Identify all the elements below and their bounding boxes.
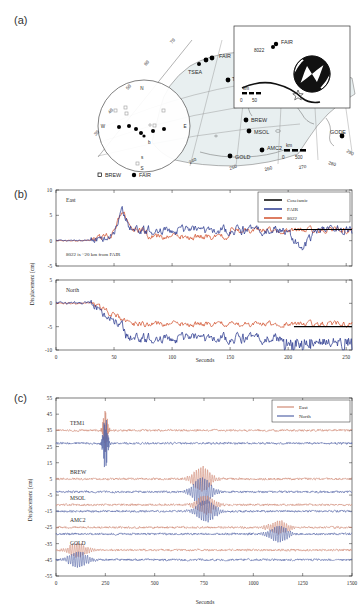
trace-east-brew <box>56 466 352 492</box>
station-label-gold: GOLD <box>235 154 250 160</box>
svg-text:Coseismic: Coseismic <box>287 198 309 203</box>
svg-text:AMC2: AMC2 <box>70 517 86 523</box>
svg-text:5: 5 <box>49 476 52 482</box>
scalebar-max: 500 <box>295 155 303 160</box>
svg-text:5: 5 <box>49 212 52 218</box>
compass-south: S <box>140 166 143 171</box>
compass-east: E <box>183 124 186 129</box>
svg-text:0: 0 <box>49 300 52 306</box>
svg-text:15: 15 <box>47 460 53 466</box>
svg-text:200: 200 <box>284 354 292 360</box>
legend-open-square-icon <box>98 173 102 177</box>
inset-label-fair: FAIR <box>281 39 293 45</box>
svg-text:East: East <box>299 405 308 410</box>
svg-text:FAIR: FAIR <box>287 207 299 212</box>
svg-text:MSOL: MSOL <box>70 495 86 501</box>
station-label-brew: BREW <box>251 117 268 123</box>
svg-text:1250: 1250 <box>297 580 308 586</box>
svg-text:1500: 1500 <box>347 580 358 586</box>
svg-text:0: 0 <box>55 354 58 360</box>
svg-text:-5: -5 <box>48 263 53 269</box>
scalebar-unit: km <box>286 143 292 148</box>
svg-text:250: 250 <box>101 580 109 586</box>
svg-text:-5: -5 <box>48 324 53 330</box>
legend-label-fair: FAIR <box>139 172 151 178</box>
svg-text:b: b <box>148 140 151 145</box>
lon-tick-260: 260 <box>264 165 273 172</box>
svg-text:-10: -10 <box>45 347 52 353</box>
panel-b-xlabel: Seconds <box>196 357 215 363</box>
svg-text:55: 55 <box>47 395 53 401</box>
svg-text:750: 750 <box>200 580 208 586</box>
panel-c-legend <box>272 400 350 422</box>
svg-text:North: North <box>299 414 311 419</box>
svg-text:North: North <box>66 287 79 293</box>
svg-text:500: 500 <box>151 580 159 586</box>
lon-tick-270: 270 <box>298 164 307 170</box>
lat-tick-70: 70 <box>169 37 176 44</box>
svg-text:TEM1: TEM1 <box>70 420 85 426</box>
trace-east-gold <box>56 543 352 557</box>
panel-b-chart: Displacement (cm) Seconds 1050-5East50-5… <box>20 184 358 366</box>
svg-text:50: 50 <box>111 354 117 360</box>
svg-text:25: 25 <box>47 444 53 450</box>
legend-filled-circle-icon <box>132 173 136 177</box>
svg-text:45: 45 <box>47 411 53 417</box>
inset-scalebar-unit: km <box>243 86 249 91</box>
station-label-gode: GODE <box>330 129 346 135</box>
svg-text:-55: -55 <box>45 573 52 579</box>
series-8022 <box>56 302 352 328</box>
svg-text:East: East <box>66 197 76 203</box>
panel-b-ylabel: Displacement (cm) <box>29 263 36 306</box>
map-inset-box: FAIR 8022 km 0 50 <box>234 26 350 108</box>
svg-text:-45: -45 <box>45 557 52 563</box>
inset-label-8022: 8022 <box>254 48 265 53</box>
svg-text:-5: -5 <box>48 492 53 498</box>
scalebar-min: 0 <box>282 155 285 160</box>
svg-text:250: 250 <box>342 354 350 360</box>
svg-text:-25: -25 <box>45 524 52 530</box>
map-legend: BREW FAIR <box>98 172 151 178</box>
lat-tick-60: 60 <box>143 59 150 66</box>
panel-a-map: N S E W b s FAIR <box>40 14 358 179</box>
svg-text:0: 0 <box>49 238 52 244</box>
svg-text:1000: 1000 <box>248 580 259 586</box>
svg-text:BREW: BREW <box>70 469 87 475</box>
panel-c-xlabel: Seconds <box>196 599 215 605</box>
lon-tick-290: 290 <box>346 148 356 156</box>
trace-east-amc2 <box>56 520 352 534</box>
svg-text:0: 0 <box>55 580 58 586</box>
svg-text:100: 100 <box>168 354 176 360</box>
inset-scalebar-min: 0 <box>240 98 243 103</box>
panel-c-chart: Displacement (cm) Seconds 55453525155-5-… <box>20 390 358 608</box>
station-label-amc2: AMC2 <box>267 145 282 151</box>
panel-a-tag: (a) <box>14 14 27 26</box>
station-label-tsea: TSEA <box>188 69 202 75</box>
station-label-fair: FAIR <box>219 53 231 59</box>
svg-text:-35: -35 <box>45 541 52 547</box>
inset-scalebar-max: 50 <box>252 98 258 103</box>
svg-text:10: 10 <box>47 187 53 193</box>
station-label-msol: MSOL <box>254 129 269 135</box>
panel-c-ylabel: Displacement (cm) <box>27 479 34 522</box>
svg-text:8022 is ~20 km from FAIR: 8022 is ~20 km from FAIR <box>66 252 121 257</box>
svg-text:5: 5 <box>49 277 52 283</box>
trace-north-tem1 <box>56 420 352 467</box>
svg-text:8022: 8022 <box>287 216 298 221</box>
svg-text:35: 35 <box>47 427 53 433</box>
compass-north: N <box>140 86 143 91</box>
svg-text:150: 150 <box>226 354 234 360</box>
legend-label-brew: BREW <box>105 172 122 178</box>
svg-text:-15: -15 <box>45 508 52 514</box>
map-magnifier-inset: N S E W b s <box>98 80 190 172</box>
lon-tick-280: 280 <box>328 160 337 167</box>
svg-text:GOLD: GOLD <box>70 540 86 546</box>
compass-west: W <box>101 124 106 129</box>
trace-north-gold <box>56 552 352 568</box>
